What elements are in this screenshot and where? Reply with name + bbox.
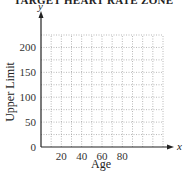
x-axis-label: Age — [91, 157, 111, 171]
axes — [39, 11, 175, 150]
y-axis-variable: y — [37, 0, 43, 12]
x-axis-arrow-icon — [167, 145, 174, 150]
chart-canvas: y x 050100150200 20406080 Upper Limit Ag… — [0, 0, 187, 178]
y-tick-labels: 050100150200 — [20, 41, 37, 153]
x-tick-label: 80 — [117, 150, 129, 162]
y-axis-label: Upper Limit — [3, 62, 17, 122]
y-tick-label: 150 — [20, 66, 37, 78]
x-axis-variable: x — [176, 140, 182, 152]
y-tick-label: 100 — [20, 91, 37, 103]
y-tick-label: 200 — [20, 41, 37, 53]
y-axis-arrow-icon — [39, 11, 44, 18]
x-tick-label: 20 — [56, 150, 68, 162]
y-tick-label: 50 — [25, 116, 37, 128]
y-tick-label: 0 — [31, 141, 37, 153]
x-tick-label: 40 — [76, 150, 88, 162]
grid-lines — [41, 35, 163, 147]
